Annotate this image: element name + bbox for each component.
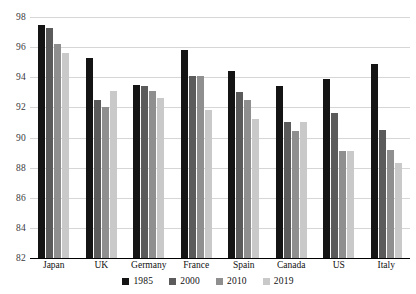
bar-group-italy (363, 17, 411, 258)
bar-germany-2019 (157, 98, 164, 258)
bar-france-1985 (181, 50, 188, 258)
legend-item-2019[interactable]: 2019 (263, 276, 294, 286)
bar-germany-2010 (149, 91, 156, 258)
y-tick-label-86: 86 (0, 193, 26, 203)
legend-label-2010: 2010 (227, 276, 247, 286)
legend-label-1985: 1985 (133, 276, 153, 286)
bar-group-france (173, 17, 221, 258)
x-axis-label-canada: Canada (277, 260, 306, 270)
bar-canada-2000 (284, 122, 291, 258)
bar-italy-1985 (371, 64, 378, 258)
bar-italy-2010 (387, 150, 394, 258)
y-tick-label-98: 98 (0, 12, 26, 22)
x-axis-label-us: US (333, 260, 345, 270)
x-axis-label-japan: Japan (43, 260, 65, 270)
bar-japan-2010 (54, 44, 61, 258)
plot-area (30, 17, 410, 258)
bar-us-2000 (331, 113, 338, 258)
x-axis-labels: JapanUKGermanyFranceSpainCanadaUSItaly (30, 260, 410, 276)
bar-france-2019 (205, 110, 212, 258)
legend-swatch-1985 (122, 278, 129, 285)
bar-us-2019 (347, 151, 354, 258)
bar-france-2010 (197, 76, 204, 258)
bar-canada-1985 (276, 86, 283, 258)
gridline-82 (30, 258, 410, 259)
legend-item-1985[interactable]: 1985 (122, 276, 153, 286)
bar-germany-1985 (133, 85, 140, 258)
y-tick-label-96: 96 (0, 42, 26, 52)
y-tick-label-82: 82 (0, 253, 26, 263)
x-axis-label-uk: UK (94, 260, 108, 270)
bar-germany-2000 (141, 86, 148, 258)
x-axis-label-france: France (183, 260, 209, 270)
legend-item-2010[interactable]: 2010 (216, 276, 247, 286)
bar-canada-2019 (300, 122, 307, 258)
y-tick-label-88: 88 (0, 163, 26, 173)
bar-us-1985 (323, 79, 330, 258)
bar-group-uk (78, 17, 126, 258)
bar-uk-2000 (94, 100, 101, 258)
y-tick-label-84: 84 (0, 223, 26, 233)
bar-spain-1985 (228, 71, 235, 258)
bar-group-us (315, 17, 363, 258)
y-tick-label-90: 90 (0, 133, 26, 143)
bar-japan-2000 (46, 28, 53, 258)
chart-legend: 1985200020102019 (0, 276, 416, 286)
bar-uk-2019 (110, 91, 117, 258)
bar-group-spain (220, 17, 268, 258)
legend-label-2000: 2000 (180, 276, 200, 286)
bar-group-japan (30, 17, 78, 258)
bar-japan-1985 (38, 25, 45, 258)
bar-france-2000 (189, 76, 196, 258)
bar-japan-2019 (62, 53, 69, 258)
bar-chart: 828486889092949698 JapanUKGermanyFranceS… (0, 0, 416, 294)
bar-italy-2019 (395, 163, 402, 258)
bar-us-2010 (339, 151, 346, 258)
bar-italy-2000 (379, 130, 386, 258)
bar-spain-2000 (236, 92, 243, 258)
bar-spain-2019 (252, 119, 259, 258)
legend-item-2000[interactable]: 2000 (169, 276, 200, 286)
bar-uk-1985 (86, 58, 93, 258)
x-axis-label-italy: Italy (378, 260, 395, 270)
legend-swatch-2000 (169, 278, 176, 285)
bars-layer (30, 17, 410, 258)
x-axis-label-spain: Spain (233, 260, 255, 270)
bar-group-germany (125, 17, 173, 258)
bar-spain-2010 (244, 100, 251, 258)
bar-group-canada (268, 17, 316, 258)
y-tick-label-92: 92 (0, 102, 26, 112)
bar-uk-2010 (102, 107, 109, 258)
y-tick-label-94: 94 (0, 72, 26, 82)
legend-label-2019: 2019 (274, 276, 294, 286)
bar-canada-2010 (292, 131, 299, 258)
x-axis-label-germany: Germany (131, 260, 166, 270)
legend-swatch-2010 (216, 278, 223, 285)
legend-swatch-2019 (263, 278, 270, 285)
